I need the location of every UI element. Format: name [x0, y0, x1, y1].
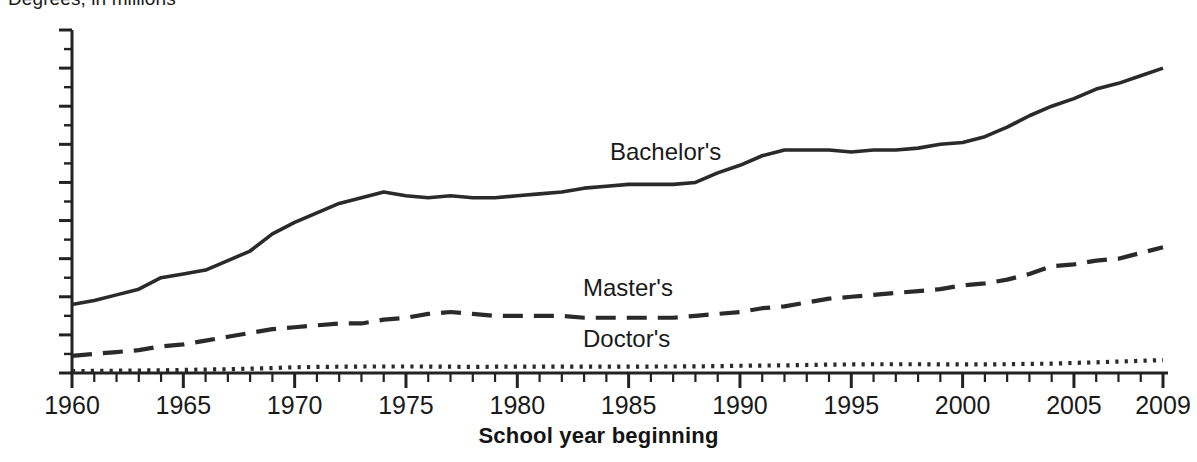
x-tick-label: 1960 — [44, 393, 100, 418]
series-label-bachelors: Bachelor's — [610, 140, 721, 164]
x-tick-label: 1970 — [267, 393, 323, 418]
chart-figure: Degrees, in millions 1.81.61.41.21.00.80… — [0, 0, 1197, 462]
x-axis-title: School year beginning — [0, 423, 1197, 449]
series-label-doctors: Doctor's — [583, 327, 670, 351]
x-tick-label: 2009 — [1135, 393, 1191, 418]
x-tick-label: 2000 — [935, 393, 991, 418]
x-tick-label: 1995 — [823, 393, 879, 418]
series-label-masters: Master's — [583, 276, 673, 300]
x-tick-labels: 1960196519701975198019851990199520002005… — [0, 0, 1197, 462]
x-tick-label: 1985 — [601, 393, 657, 418]
x-tick-label: 1980 — [489, 393, 545, 418]
x-tick-label: 2005 — [1046, 393, 1102, 418]
x-tick-label: 1975 — [378, 393, 434, 418]
x-tick-label: 1965 — [156, 393, 212, 418]
x-tick-label: 1990 — [712, 393, 768, 418]
